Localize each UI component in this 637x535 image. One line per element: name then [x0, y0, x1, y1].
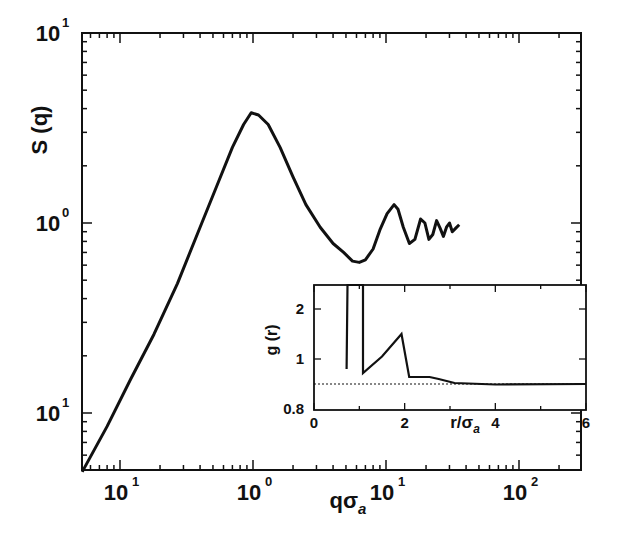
chart-figure: 101100101102 101100101 qσa S (q) 0246 0.… [0, 0, 637, 535]
inset-x-tick-label: 0 [310, 414, 318, 431]
inset-background [314, 285, 586, 410]
inset-y-tick-label: 0.8 [283, 400, 304, 417]
main-x-tick-labels: 101100101102 [104, 474, 538, 505]
x-tick-label-exponent: 2 [531, 474, 538, 489]
inset-y-tick-labels: 0.812 [283, 300, 304, 417]
inset-y-tick-label: 2 [296, 300, 304, 317]
y-tick-label-exponent: 1 [62, 395, 69, 410]
y-tick-label-exponent: 0 [62, 205, 69, 220]
inset-x-axis-title: r/σa [450, 413, 480, 436]
x-tick-label: 10 [237, 480, 261, 505]
y-tick-label: 10 [36, 21, 60, 46]
inset-plot: 0246 0.812 r/σa g (r) [263, 285, 590, 436]
y-tick-label: 10 [36, 211, 60, 236]
x-tick-label-exponent: 1 [398, 474, 405, 489]
main-plot: 101100101102 101100101 qσa S (q) [27, 15, 581, 517]
x-axis-title: qσa [330, 488, 367, 517]
inset-x-tick-label: 4 [491, 414, 500, 431]
main-y-tick-labels: 101100101 [36, 15, 69, 426]
inset-y-tick-label: 1 [296, 350, 304, 367]
y-tick-label-exponent: 1 [62, 15, 69, 30]
inset-x-tick-label: 6 [582, 414, 590, 431]
x-tick-label-exponent: 1 [132, 474, 139, 489]
x-tick-label: 10 [503, 480, 527, 505]
x-tick-label: 10 [370, 480, 394, 505]
x-tick-label: 10 [104, 480, 128, 505]
x-tick-label-exponent: 0 [265, 474, 272, 489]
inset-y-axis-title: g (r) [263, 324, 280, 355]
inset-x-tick-label: 2 [400, 414, 408, 431]
y-tick-label: 10 [36, 401, 60, 426]
y-axis-title: S (q) [27, 106, 52, 155]
